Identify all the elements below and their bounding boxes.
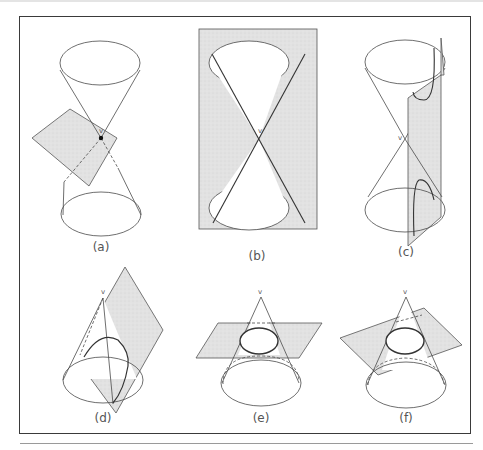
caption-a: (a) [81, 240, 121, 254]
panel-d [61, 267, 163, 413]
base-ellipse-e [221, 360, 301, 406]
vertex-label-c: v [398, 134, 402, 142]
vertex-label-f: v [403, 288, 407, 296]
caption-b: (b) [237, 249, 277, 263]
vertex-label-a: v [99, 127, 103, 135]
circle-section-e [240, 328, 278, 354]
panel-e [196, 297, 322, 406]
caption-c: (c) [386, 245, 426, 259]
lower-ellipse-a [61, 192, 141, 236]
upper-ellipse-c [365, 40, 445, 84]
panel-a [32, 41, 141, 236]
vertex-label-e: v [258, 288, 262, 296]
plane-c [408, 75, 441, 246]
conic-sections-figure: v v v v [0, 0, 483, 450]
caption-e: (e) [241, 411, 281, 425]
vertex-label-d: v [101, 288, 105, 296]
vertex-label-b: v [258, 127, 262, 135]
vertex-point-a [99, 136, 103, 140]
bottom-rule [20, 443, 473, 444]
caption-d: (d) [83, 411, 123, 425]
panel-f [340, 297, 462, 408]
panel-c [365, 38, 445, 246]
plane-a [32, 109, 117, 186]
caption-f: (f) [386, 411, 426, 425]
ellipse-section-f [386, 328, 424, 354]
upper-ellipse-a [60, 41, 140, 85]
